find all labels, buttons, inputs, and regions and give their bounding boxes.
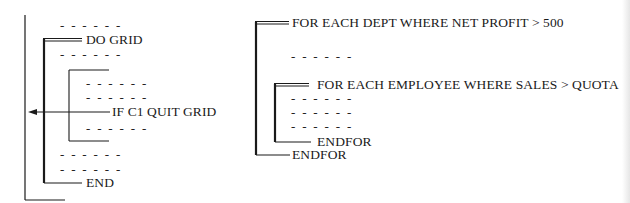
statement-placeholder: - - - - - - — [291, 94, 353, 104]
outer-endfor-label: ENDFOR — [292, 148, 347, 162]
statement-placeholder: - - - - - - — [60, 150, 122, 160]
statement-placeholder: - - - - - - — [60, 50, 122, 60]
end-label: END — [86, 176, 114, 190]
statement-placeholder: - - - - - - — [60, 165, 122, 175]
statement-placeholder: - - - - - - — [86, 124, 148, 134]
outer-for-label: FOR EACH DEPT WHERE NET PROFIT > 500 — [292, 16, 564, 30]
do-grid-label: DO GRID — [86, 33, 143, 47]
inner-for-label: FOR EACH EMPLOYEE WHERE SALES > QUOTA — [317, 78, 619, 92]
statement-placeholder: - - - - - - — [60, 21, 122, 31]
quit-arrow-head-icon — [28, 109, 37, 115]
statement-placeholder: - - - - - - — [291, 122, 353, 132]
statement-placeholder: - - - - - - — [86, 79, 148, 89]
statement-placeholder: - - - - - - — [291, 52, 353, 62]
statement-placeholder: - - - - - - — [291, 108, 353, 118]
statement-placeholder: - - - - - - — [86, 93, 148, 103]
if-quit-label: IF C1 QUIT GRID — [112, 105, 216, 119]
